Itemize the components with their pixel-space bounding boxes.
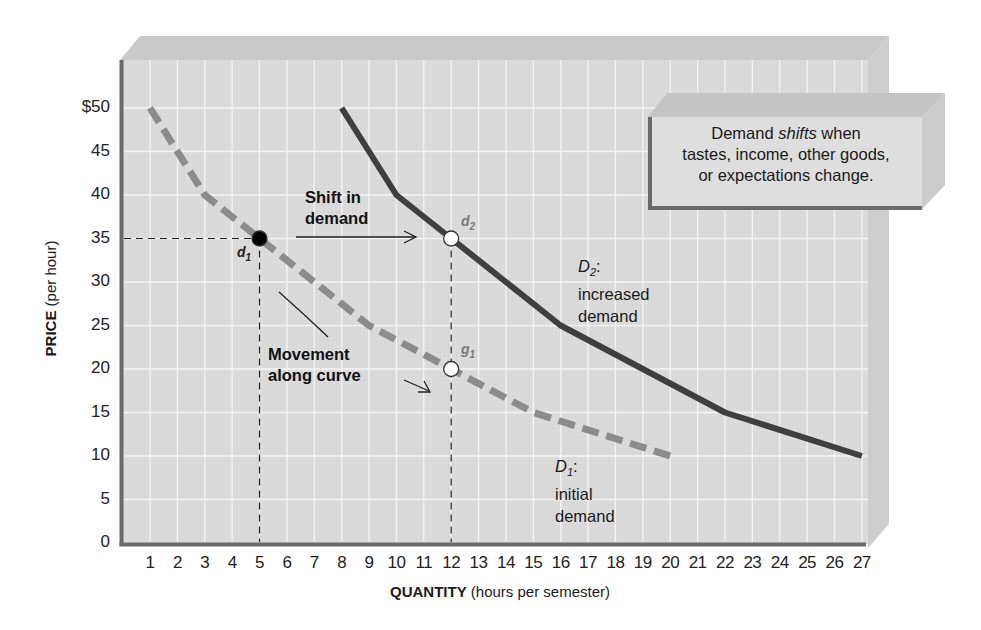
x-tick-label: 19	[628, 553, 658, 573]
x-tick-label: 21	[683, 553, 713, 573]
curve-label-d2-letter: D2	[578, 257, 596, 275]
x-tick-label: 13	[464, 553, 494, 573]
x-tick-label: 27	[847, 553, 877, 573]
x-tick-label: 12	[436, 553, 466, 573]
point-label-d1: d1	[237, 244, 251, 263]
point-label-d2: d2	[461, 213, 475, 232]
x-tick-label: 24	[765, 553, 795, 573]
y-tick-label: 40	[62, 184, 110, 204]
callout-text: Demand shifts when tastes, income, other…	[652, 123, 920, 186]
y-axis-title-rest: (per hour)	[42, 241, 59, 307]
x-tick-label: 18	[600, 553, 630, 573]
x-tick-label: 9	[354, 553, 384, 573]
point-marker-d1	[252, 231, 267, 246]
point-sub: 1	[470, 349, 476, 360]
point-sub: 2	[470, 221, 476, 232]
x-tick-label: 20	[655, 553, 685, 573]
y-tick-label: $50	[62, 97, 110, 117]
y-axis-title: PRICE (per hour)	[42, 209, 59, 389]
point-marker-g1	[444, 362, 459, 377]
curve-label-d2-line1: increased	[578, 283, 650, 305]
point-letter: d	[237, 244, 246, 260]
x-axis-title: QUANTITY (hours per semester)	[300, 583, 700, 600]
y-tick-label: 0	[62, 532, 110, 552]
callout-line2: tastes, income, other goods,	[652, 144, 920, 165]
shift-line2: demand	[305, 208, 368, 229]
x-tick-label: 7	[299, 553, 329, 573]
point-label-g1: g1	[461, 341, 475, 360]
x-axis-title-rest: (hours per semester)	[471, 583, 610, 600]
point-marker-d2	[444, 231, 459, 246]
curve-label-d2-line2: demand	[578, 305, 650, 327]
point-letter: g	[461, 341, 470, 357]
curve-label-d1: D1: initial demand	[555, 455, 615, 527]
x-tick-label: 14	[491, 553, 521, 573]
y-tick-label: 25	[62, 315, 110, 335]
x-tick-label: 8	[327, 553, 357, 573]
y-tick-label: 35	[62, 228, 110, 248]
point-letter: d	[461, 213, 470, 229]
movement-line2: along curve	[268, 365, 361, 386]
point-sub: 1	[246, 252, 252, 263]
x-tick-label: 16	[546, 553, 576, 573]
movement-along-curve-annotation: Movement along curve	[268, 344, 361, 386]
x-tick-label: 5	[245, 553, 275, 573]
x-tick-label: 1	[135, 553, 165, 573]
y-axis-title-bold: PRICE	[42, 311, 59, 357]
x-tick-label: 3	[190, 553, 220, 573]
y-tick-label: 5	[62, 489, 110, 509]
x-tick-label: 25	[792, 553, 822, 573]
x-tick-label: 4	[217, 553, 247, 573]
y-tick-label: 20	[62, 358, 110, 378]
callout-emphasis: shifts	[778, 124, 817, 142]
callout-line3: or expectations change.	[652, 165, 920, 186]
x-tick-label: 11	[409, 553, 439, 573]
y-tick-label: 10	[62, 445, 110, 465]
x-axis-title-bold: QUANTITY	[390, 583, 467, 600]
curve-label-d1-letter: D1	[555, 457, 573, 475]
y-tick-label: 30	[62, 271, 110, 291]
x-tick-label: 2	[162, 553, 192, 573]
callout-top-face	[648, 93, 945, 117]
y-tick-label: 15	[62, 402, 110, 422]
curve-label-d1-line1: initial	[555, 483, 615, 505]
panel-top-face	[120, 36, 889, 60]
callout-pre: Demand	[711, 124, 778, 142]
y-tick-label: 45	[62, 141, 110, 161]
x-tick-label: 22	[710, 553, 740, 573]
shift-in-demand-annotation: Shift in demand	[305, 187, 368, 229]
chart-canvas	[0, 0, 981, 630]
movement-line1: Movement	[268, 344, 361, 365]
x-tick-label: 23	[737, 553, 767, 573]
x-tick-label: 6	[272, 553, 302, 573]
shift-line1: Shift in	[305, 187, 368, 208]
curve-label-d2: D2: increased demand	[578, 255, 650, 327]
x-tick-label: 17	[573, 553, 603, 573]
callout-post: when	[817, 124, 861, 142]
curve-label-d1-line2: demand	[555, 505, 615, 527]
x-tick-label: 15	[518, 553, 548, 573]
x-tick-label: 26	[820, 553, 850, 573]
x-tick-label: 10	[381, 553, 411, 573]
